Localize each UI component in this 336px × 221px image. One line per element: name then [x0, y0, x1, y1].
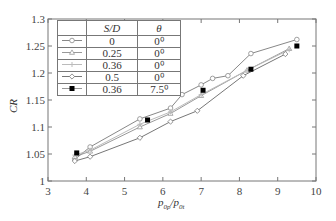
circle-marker	[199, 83, 204, 88]
y-axis-label: CR	[7, 99, 19, 113]
legend-row: 0.50⁰	[58, 72, 181, 84]
x-tick-label: 5	[122, 185, 128, 197]
legend-sd-value: 0.36	[87, 84, 138, 96]
circle-marker	[138, 117, 143, 122]
legend-swatch	[58, 72, 87, 84]
legend-swatch	[58, 48, 87, 60]
diamond-marker	[69, 74, 74, 79]
y-tick-label: 1	[40, 175, 46, 187]
legend-swatch	[58, 84, 87, 96]
circle-marker	[70, 38, 75, 43]
legend-header-theta: θ	[138, 21, 181, 36]
y-tick-label: 1.05	[26, 148, 46, 160]
legend-row: 0.360⁰	[58, 60, 181, 72]
x-axis-label: p0p/p0t	[158, 196, 185, 211]
diamond-marker	[88, 154, 93, 159]
legend-swatch	[58, 36, 87, 48]
x-tick-label: 4	[84, 185, 90, 197]
legend-swatch	[58, 60, 87, 72]
legend-theta-value: 0⁰	[138, 36, 181, 48]
legend-sd-value: 0.36	[87, 60, 138, 72]
legend-table: S/D θ 00⁰0.250⁰0.360⁰0.50⁰0.367.5⁰	[57, 20, 181, 96]
y-tick-label: 1.1	[31, 121, 45, 133]
x-tick-label: 3	[45, 185, 51, 197]
legend-header-sd: S/D	[87, 21, 138, 36]
circle-marker	[295, 37, 300, 42]
square-marker	[74, 150, 79, 155]
square-marker	[145, 117, 150, 122]
square-marker	[294, 44, 299, 49]
circle-marker	[210, 76, 215, 81]
square-marker	[248, 67, 253, 72]
x-tick-label: 10	[311, 185, 323, 197]
circle-marker	[226, 73, 231, 78]
x-tick-label: 9	[275, 185, 281, 197]
legend-row: 00⁰	[58, 36, 181, 48]
legend-theta-value: 0⁰	[138, 72, 181, 84]
legend-row: 0.367.5⁰	[58, 84, 181, 96]
square-marker	[70, 86, 75, 91]
legend-theta-value: 0⁰	[138, 48, 181, 60]
legend-header-symbol	[58, 21, 87, 36]
y-tick-label: 1.3	[31, 13, 45, 25]
y-tick-label: 1.15	[26, 94, 46, 106]
diamond-marker	[168, 119, 173, 124]
x-tick-label: 8	[237, 185, 243, 197]
x-tick-label: 7	[198, 185, 204, 197]
y-tick-label: 1.25	[26, 40, 46, 52]
y-tick-label: 1.2	[31, 67, 45, 79]
legend-sd-value: 0.25	[87, 48, 138, 60]
legend-theta-value: 0⁰	[138, 60, 181, 72]
legend-row: 0.250⁰	[58, 48, 181, 60]
square-marker	[201, 88, 206, 93]
diamond-marker	[137, 135, 142, 140]
legend-sd-value: 0.5	[87, 72, 138, 84]
legend-theta-value: 7.5⁰	[138, 84, 181, 96]
circle-marker	[249, 51, 254, 56]
legend-sd-value: 0	[87, 36, 138, 48]
